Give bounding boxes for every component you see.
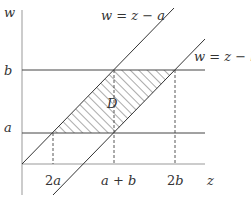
tick-2a: 2a	[45, 173, 61, 188]
tick-2b: 2b	[167, 173, 184, 188]
label-w-equals-z-minus-b: w = z − b	[194, 49, 251, 64]
region-d-label: D	[106, 96, 118, 111]
b-label: b	[4, 63, 12, 78]
a-label: a	[4, 120, 12, 135]
tick-2a-coef: 2	[45, 173, 53, 188]
tick-a-plus-b: a + b	[101, 173, 136, 188]
region-diagram: w b a w = z − a w = z − b D 2a a + b 2b …	[0, 0, 251, 208]
tick-2b-var: b	[175, 173, 183, 188]
w-axis-label: w	[4, 5, 15, 20]
tick-2a-var: a	[53, 173, 61, 188]
z-axis-label: z	[206, 173, 214, 188]
label-w-equals-z-minus-a: w = z − a	[101, 8, 165, 23]
tick-2b-coef: 2	[167, 173, 175, 188]
